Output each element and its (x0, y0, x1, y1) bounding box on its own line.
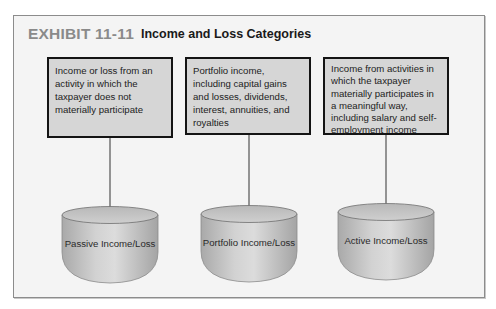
cylinder-label-active: Active Income/Loss (326, 235, 446, 246)
cylinder-label-portfolio: Portfolio Income/Loss (189, 237, 309, 248)
category-box-portfolio: Portfolio income, including capital gain… (185, 57, 311, 135)
category-description-active: Income from activities in which the taxp… (331, 63, 437, 135)
category-box-passive: Income or loss from an activity in which… (47, 57, 173, 138)
diagram-graphics (0, 0, 496, 309)
category-description-portfolio: Portfolio income, including capital gain… (193, 65, 290, 128)
category-box-active: Income from activities in which the taxp… (323, 57, 449, 135)
cylinder-label-passive: Passive Income/Loss (50, 238, 170, 249)
category-description-passive: Income or loss from an activity in which… (55, 65, 153, 115)
